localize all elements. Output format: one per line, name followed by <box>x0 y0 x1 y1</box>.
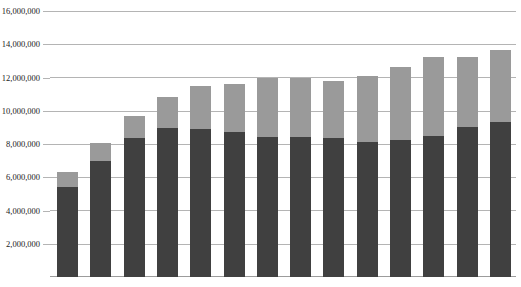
bar-6[interactable] <box>224 84 245 277</box>
bar-segment-upper <box>90 143 111 160</box>
bar-segment-lower <box>457 127 478 277</box>
bar-14[interactable] <box>490 50 511 277</box>
y-tick-mark <box>43 177 50 178</box>
bar-segment-lower <box>224 132 245 277</box>
bar-segment-upper <box>323 81 344 138</box>
bar-segment-lower <box>357 142 378 277</box>
bar-2[interactable] <box>90 143 111 277</box>
y-tick-mark <box>43 44 50 45</box>
bar-segment-upper <box>390 67 411 140</box>
bar-segment-lower <box>124 138 145 277</box>
bar-10[interactable] <box>357 76 378 277</box>
bar-segment-upper <box>57 172 78 187</box>
bar-segment-lower <box>190 129 211 277</box>
bar-13[interactable] <box>457 57 478 277</box>
bar-9[interactable] <box>323 81 344 277</box>
bar-12[interactable] <box>423 57 444 277</box>
bar-segment-upper <box>157 97 178 129</box>
y-tick-mark <box>43 144 50 145</box>
y-tick-mark <box>43 78 50 79</box>
y-tick-label: 4,000,000 <box>6 207 40 216</box>
bar-segment-upper <box>357 76 378 143</box>
bar-5[interactable] <box>190 86 211 277</box>
bar-segment-upper <box>224 84 245 132</box>
y-tick-mark <box>43 211 50 212</box>
bar-7[interactable] <box>257 78 278 277</box>
y-tick-label: 12,000,000 <box>2 74 40 83</box>
y-tick-label: 16,000,000 <box>2 7 40 16</box>
y-tick-label: 8,000,000 <box>6 140 40 149</box>
bar-segment-upper <box>457 57 478 128</box>
bar-chart: 16,000,000 14,000,000 12,000,000 10,000,… <box>0 0 521 287</box>
bar-segment-lower <box>290 137 311 277</box>
bar-segment-upper <box>290 78 311 137</box>
bar-segment-lower <box>423 136 444 277</box>
bar-segment-upper <box>257 78 278 137</box>
y-tick-mark <box>43 111 50 112</box>
plot-area <box>50 11 516 277</box>
bar-segment-lower <box>490 122 511 277</box>
y-axis-labels: 16,000,000 14,000,000 12,000,000 10,000,… <box>0 0 44 287</box>
bar-segment-lower <box>390 140 411 277</box>
y-tick-mark <box>43 244 50 245</box>
bar-segment-upper <box>124 116 145 138</box>
bar-4[interactable] <box>157 97 178 277</box>
bar-11[interactable] <box>390 67 411 277</box>
y-tick-label: 14,000,000 <box>2 40 40 49</box>
y-tick-label: 6,000,000 <box>6 173 40 182</box>
bar-segment-upper <box>423 57 444 136</box>
bar-segment-upper <box>490 50 511 122</box>
bars-layer <box>50 11 516 277</box>
bar-8[interactable] <box>290 78 311 277</box>
bar-segment-lower <box>323 138 344 277</box>
y-tick-label: 2,000,000 <box>6 240 40 249</box>
bar-segment-lower <box>57 187 78 277</box>
bar-segment-upper <box>190 86 211 129</box>
bar-3[interactable] <box>124 116 145 277</box>
y-tick-label: 10,000,000 <box>2 107 40 116</box>
bar-segment-lower <box>90 161 111 277</box>
bar-segment-lower <box>157 128 178 277</box>
bar-1[interactable] <box>57 172 78 277</box>
y-tick-mark <box>43 11 50 12</box>
bar-segment-lower <box>257 137 278 277</box>
